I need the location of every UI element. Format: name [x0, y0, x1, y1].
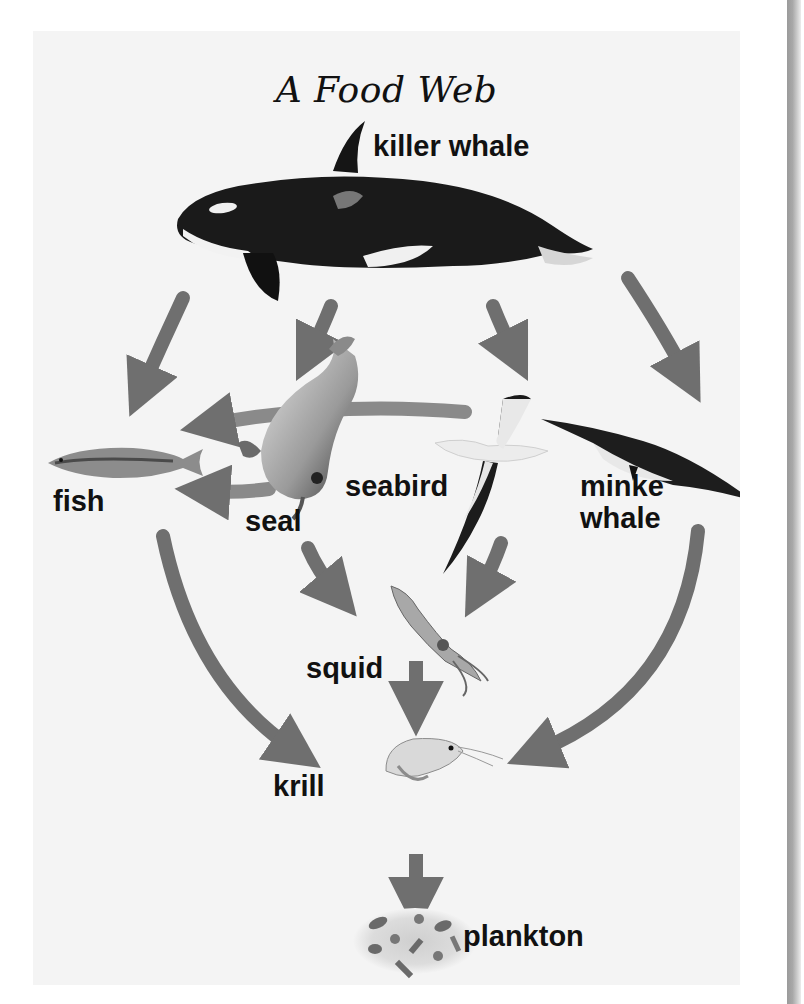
squid-illustration [391, 586, 488, 696]
label-killer-whale: killer whale [373, 131, 529, 161]
arrow-killerwhale-to-seal [311, 306, 331, 351]
label-minke-whale-line2: whale [580, 503, 661, 533]
krill-illustration [386, 739, 503, 780]
arrows [143, 278, 698, 899]
arrow-fish-to-krill [163, 536, 293, 749]
arrow-killerwhale-to-minke [628, 278, 685, 373]
plankton-illustration [353, 908, 477, 978]
label-krill: krill [273, 771, 325, 801]
label-fish: fish [53, 486, 105, 516]
arrow-killerwhale-to-seabird [493, 306, 513, 351]
page-edge-rule [787, 0, 801, 1004]
arrow-seabird-to-squid [481, 543, 501, 588]
seabird-illustration [435, 395, 548, 574]
label-squid: squid [306, 653, 383, 683]
label-minke-whale-line1: minke [580, 471, 664, 501]
label-seal: seal [245, 506, 301, 536]
fish-illustration [48, 448, 203, 478]
arrow-killerwhale-to-fish [143, 298, 183, 386]
food-web-diagram: A Food Web [33, 31, 740, 985]
arrow-seal-to-fish [208, 489, 269, 492]
arrow-minke-to-krill [538, 531, 698, 751]
label-seabird: seabird [345, 471, 448, 501]
label-plankton: plankton [463, 921, 584, 951]
arrow-seal-to-squid [308, 548, 335, 591]
